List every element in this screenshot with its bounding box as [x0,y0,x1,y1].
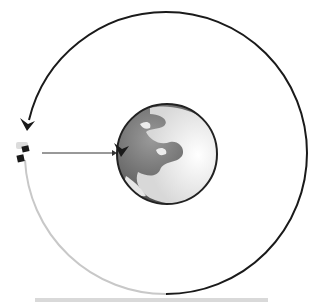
earth-globe-icon [117,104,218,204]
caption-bar [35,298,268,302]
orbit-diagram [0,0,324,302]
pointer-arrow-icon [42,150,117,156]
satellite-icon [16,142,30,163]
orbit-direction-arrow-icon [20,118,35,131]
